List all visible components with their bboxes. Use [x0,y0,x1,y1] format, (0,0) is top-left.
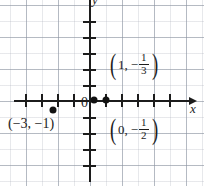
x-axis-tick [57,94,59,107]
data-point [50,107,57,114]
x-axis-tick [153,94,155,107]
fraction-one-third: 1 3 [139,52,149,76]
major-gridlines [0,0,204,186]
y-axis-tick [83,21,96,23]
comma: , [125,58,128,71]
y-axis-label: y [92,0,98,8]
x-axis-tick [41,94,43,107]
y-axis-tick [83,133,96,135]
close-paren: ) [151,52,157,77]
origin-label: 0 [81,95,88,111]
coordinate-plane-figure: x y 0 ( 1 , − 1 3 ) ( 0 , − 1 2 ) (−3, −… [0,0,204,186]
y-axis-tick [83,149,96,151]
y-axis-tick [83,53,96,55]
y-axis-tick [83,37,96,39]
x-axis-tick [169,94,171,107]
x-axis-tick [73,94,75,107]
x-axis-tick [121,94,123,107]
fraction-one-half: 1 2 [139,117,149,141]
x-axis-tick [137,94,139,107]
y-axis-tick [83,69,96,71]
numerator: 1 [139,117,149,129]
open-paren: ( [110,52,116,77]
y-axis-tick [83,165,96,167]
data-point [91,97,98,104]
numerator: 1 [139,52,149,64]
denominator: 2 [139,129,149,142]
minus-sign: − [131,123,138,136]
point-label-0-minus-one-half: ( 0 , − 1 2 ) [108,117,160,142]
minus-sign: − [131,58,138,71]
y-axis-tick [83,117,96,119]
comma: , [125,123,128,136]
y-axis [89,0,91,182]
data-point [103,97,110,104]
minor-gridlines [0,0,204,186]
denominator: 3 [139,64,149,77]
close-paren: ) [151,117,157,142]
point-label-minus3-minus1: (−3, −1) [8,117,54,131]
x-axis-label: x [190,101,196,117]
point-label-1-minus-one-third: ( 1 , − 1 3 ) [108,52,160,77]
y-axis-tick [83,85,96,87]
open-paren: ( [110,117,116,142]
x-axis-tick [25,94,27,107]
